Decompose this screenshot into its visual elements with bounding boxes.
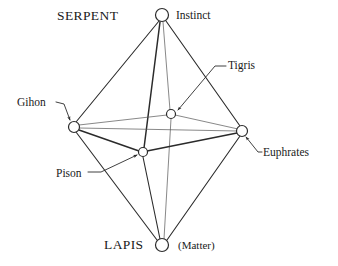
label-tigris: Tigris [228,60,255,72]
label-matter: (Matter) [178,240,215,251]
label-gihon: Gihon [17,97,46,109]
node-serpent[interactable] [156,9,169,22]
edge-gihon-tigris [79,115,167,125]
edge-serpent-euphrates [166,21,240,126]
edge-euphrates-lapis [167,136,240,240]
edge-group-inner [79,115,238,151]
node-lapis[interactable] [156,239,169,252]
leader-group [56,66,262,172]
edge-tigris-euphrates [175,115,238,129]
node-group [69,9,248,252]
edge-pison-lapis [143,157,160,239]
edge-serpent-gihon [76,21,159,122]
node-tigris[interactable] [167,110,176,119]
label-instinct: Instinct [176,10,211,22]
node-euphrates[interactable] [237,126,248,137]
label-pison: Pison [56,168,82,180]
edge-serpent-tigris [163,22,170,110]
diagram-canvas: SERPENT Instinct Tigris Gihon Euphrates … [0,0,338,266]
label-euphrates: Euphrates [263,147,309,159]
edge-gihon-euphrates [79,128,237,131]
edge-pison-euphrates [147,133,237,151]
node-pison[interactable] [139,148,148,157]
label-lapis: LAPIS [104,238,144,252]
label-serpent: SERPENT [57,9,118,23]
edge-tigris-lapis [164,119,171,239]
diagram-graphic [0,0,338,266]
node-gihon[interactable] [69,122,80,133]
leader-line-gihon [56,102,70,120]
leader-line-euphrates [246,137,262,152]
